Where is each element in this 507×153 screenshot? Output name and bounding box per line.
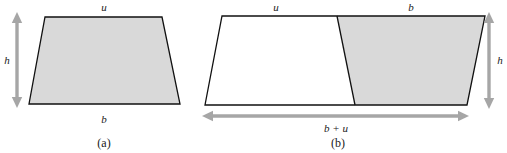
trapezoid-region-b-b [337, 16, 485, 105]
trapezoid-region-u-b [205, 16, 355, 105]
label-u-a: u [101, 1, 107, 13]
panel-b-group: u b b + u h (b) [202, 1, 503, 150]
geometry-diagram: u b h (a) [0, 0, 507, 153]
trapezoid-shape-a [29, 17, 180, 104]
label-base-total-b: b + u [324, 122, 348, 134]
caption-a: (a) [97, 136, 110, 150]
label-b-b: b [408, 1, 414, 13]
label-u-b: u [273, 1, 279, 13]
label-h-b: h [497, 54, 503, 66]
height-arrow-a [12, 12, 22, 108]
caption-b: (b) [331, 136, 345, 150]
base-arrow-b [202, 111, 469, 121]
label-b-a: b [101, 113, 107, 125]
height-arrow-b [484, 12, 494, 109]
figure-container: u b h (a) [0, 0, 507, 153]
panel-a-group: u b h (a) [4, 1, 180, 150]
label-h-a: h [4, 54, 10, 66]
